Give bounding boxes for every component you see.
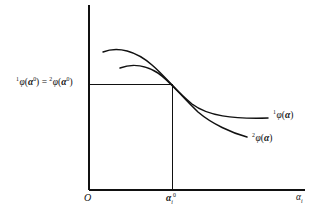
curve-phi-2 (120, 66, 247, 137)
math-figure: 1φ(α0) = 2φ(α0) O αi0 αi 1φ(α) 2φ(α) (0, 0, 317, 221)
subscript-i-tick: i (171, 199, 173, 205)
x-tick-label: αi0 (166, 193, 176, 206)
subscript-i-axis: i (301, 198, 303, 204)
paren-close-curve2: ) (269, 133, 272, 143)
paren-close-curve1: ) (290, 110, 293, 120)
superscript-0-tick: 0 (173, 192, 176, 198)
paren-close-left: ) (36, 77, 39, 87)
x-axis-label: αi (296, 193, 303, 205)
origin-label: O (84, 193, 91, 203)
paren-close-right: ) (69, 77, 72, 87)
equals-sign: = (42, 77, 47, 87)
curve-label-phi-2: 2φ(α) (252, 133, 272, 144)
y-value-label: 1φ(α0) = 2φ(α0) (16, 77, 73, 88)
plot-canvas (0, 0, 317, 221)
curve-label-phi-1: 1φ(α) (273, 110, 293, 121)
